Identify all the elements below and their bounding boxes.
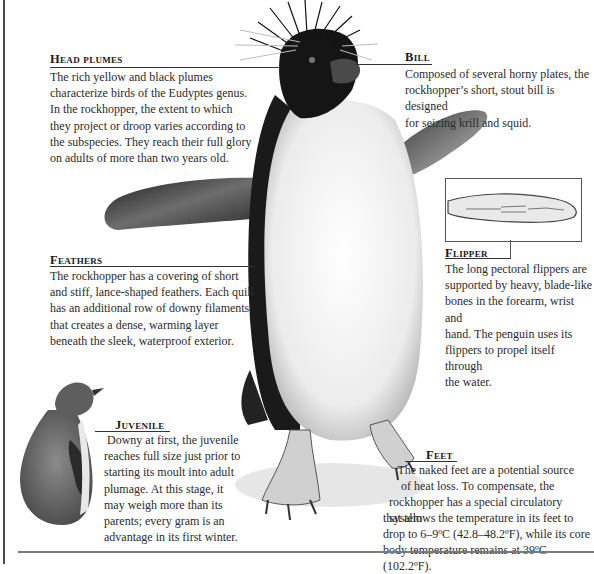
rule-bill (355, 64, 432, 65)
juvenile-chick-head (55, 382, 94, 416)
text-feet-line-4: drop to 6–9ºC (42.8–48.2ºF), while its c… (383, 526, 590, 542)
text-feet-line-0: The naked feet are a potential source (390, 462, 574, 478)
flipper-bone-diagram (446, 179, 581, 241)
rule-flipper (445, 258, 511, 259)
juvenile-chick-bill (92, 388, 104, 396)
text-feet-line-5: body temperature remains at 39ºC (102.2º… (383, 542, 594, 574)
penguin-belly (264, 100, 423, 441)
heading-feathers: Feathers (50, 253, 102, 267)
text-bill: Composed of several horny plates, the ro… (405, 66, 594, 131)
text-flipper: The long pectoral flippers are supported… (445, 261, 594, 391)
heading-feet: Feet (426, 448, 453, 462)
text-juvenile: Downy at first, the juvenile reaches ful… (104, 432, 240, 545)
flipper-inset-connector (510, 240, 511, 258)
text-feet-line-1: of heat loss. To compensate, the (401, 478, 554, 494)
penguin-eye (309, 57, 315, 63)
heading-juvenile: Juvenile (115, 418, 165, 432)
left-foot (262, 430, 320, 505)
text-feet-line-3: that allows the temperature in its feet … (383, 510, 573, 526)
rule-head-plumes (50, 67, 280, 68)
bottom-rule (18, 551, 594, 553)
heading-bill: Bill (405, 50, 430, 64)
flipper-bones-inset (445, 178, 582, 242)
heading-head-plumes: Head plumes (50, 52, 123, 66)
left-flipper (105, 178, 263, 230)
penguin-bill (330, 59, 360, 84)
text-head-plumes: The rich yellow and black plumes charact… (50, 69, 251, 166)
rule-feathers (50, 266, 255, 267)
text-feathers: The rockhopper has a covering of short a… (50, 268, 254, 349)
